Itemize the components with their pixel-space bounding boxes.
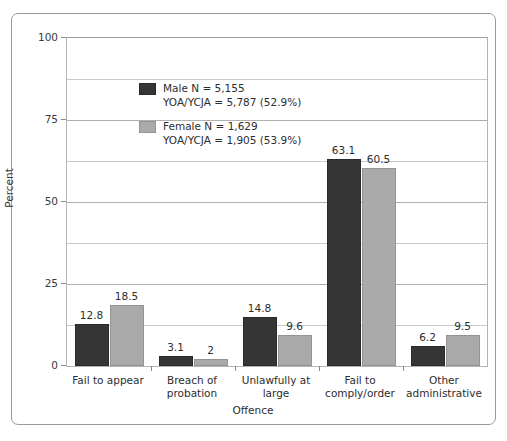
gridline-major [67, 284, 487, 285]
category-separator [235, 366, 236, 371]
y-axis-title: Percent [3, 168, 15, 208]
bar-value-label: 3.1 [167, 341, 184, 353]
x-category-label: Fail to appear [72, 374, 144, 387]
gridline-minor [67, 79, 487, 80]
category-separator [319, 366, 320, 371]
plot-area: 12.818.53.1214.89.663.160.56.29.5 Male N… [66, 37, 488, 367]
bar-value-label: 2 [207, 344, 214, 356]
bar-female [446, 335, 480, 366]
bar-male [327, 159, 361, 366]
bar-value-label: 60.5 [367, 153, 390, 165]
bar-value-label: 6.2 [419, 331, 436, 343]
y-tick-mark [61, 37, 66, 38]
bar-female [362, 168, 396, 366]
legend-female-line1: Female N = 1,629 [163, 120, 258, 132]
legend-male-line1: Male N = 5,155 [163, 82, 245, 94]
y-tick-mark [61, 365, 66, 366]
y-tick-label: 100 [22, 31, 58, 43]
legend-swatch-female-icon [139, 121, 156, 133]
x-category-label: Fail to comply/order [325, 374, 395, 400]
legend-item-female: Female N = 1,629 YOA/YCJA = 1,905 (53.9%… [139, 120, 301, 147]
bar-value-label: 14.8 [248, 302, 271, 314]
bar-female [278, 335, 312, 366]
bar-female [110, 305, 144, 366]
bar-value-label: 9.6 [286, 320, 303, 332]
y-tick-mark [61, 201, 66, 202]
bar-male [411, 346, 445, 366]
y-tick-label: 50 [22, 195, 58, 207]
gridline-minor [67, 161, 487, 162]
y-tick-mark [61, 283, 66, 284]
bar-female [194, 359, 228, 366]
y-tick-label: 0 [22, 359, 58, 371]
category-separator [403, 366, 404, 371]
legend-label-male: Male N = 5,155 YOA/YCJA = 5,787 (52.9%) [163, 82, 301, 109]
legend-label-female: Female N = 1,629 YOA/YCJA = 1,905 (53.9%… [163, 120, 301, 147]
gridline-minor [67, 243, 487, 244]
x-category-label: Unlawfully at large [242, 374, 311, 400]
y-tick-label: 75 [22, 113, 58, 125]
legend-male-line2: YOA/YCJA = 5,787 (52.9%) [163, 96, 301, 108]
bar-value-label: 63.1 [332, 144, 355, 156]
y-tick-mark [61, 119, 66, 120]
chart-legend: Male N = 5,155 YOA/YCJA = 5,787 (52.9%) … [139, 82, 301, 158]
bar-male [159, 356, 193, 366]
x-axis-title: Offence [233, 404, 274, 416]
x-category-label: Other administrative [406, 374, 482, 400]
gridline-major [67, 202, 487, 203]
bar-value-label: 12.8 [80, 309, 103, 321]
bar-male [75, 324, 109, 366]
legend-swatch-male-icon [139, 83, 156, 95]
bar-value-label: 18.5 [115, 290, 138, 302]
chart-figure: Percent 12.818.53.1214.89.663.160.56.29.… [0, 0, 507, 441]
bar-value-label: 9.5 [454, 320, 471, 332]
legend-female-line2: YOA/YCJA = 1,905 (53.9%) [163, 134, 301, 146]
legend-item-male: Male N = 5,155 YOA/YCJA = 5,787 (52.9%) [139, 82, 301, 109]
x-category-label: Breach of probation [167, 374, 217, 400]
category-separator [151, 366, 152, 371]
bar-male [243, 317, 277, 366]
y-tick-label: 25 [22, 277, 58, 289]
